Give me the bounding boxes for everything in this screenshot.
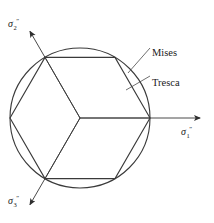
axis-label-sigma3: σ3″ <box>8 196 19 206</box>
axis-label-sigma2: σ2″ <box>8 19 19 29</box>
annotation-label-mises: Mises <box>152 48 177 59</box>
axis-superscript: ″ <box>16 194 19 202</box>
leader-line-mises <box>128 48 150 73</box>
axis-superscript: ″ <box>16 17 19 25</box>
axis-label-sigma1: σ1″ <box>181 127 192 137</box>
annotation-label-tresca: Tresca <box>152 78 180 89</box>
axis-superscript: ″ <box>189 125 192 133</box>
diagram-canvas <box>0 0 214 223</box>
hexagon-interior-radii <box>45 57 150 178</box>
yield-surface-diagram: σ1″σ2″σ3″MisesTresca <box>0 0 214 223</box>
hexagon-radius-240 <box>45 118 80 179</box>
hexagon-radius-120 <box>45 57 80 118</box>
